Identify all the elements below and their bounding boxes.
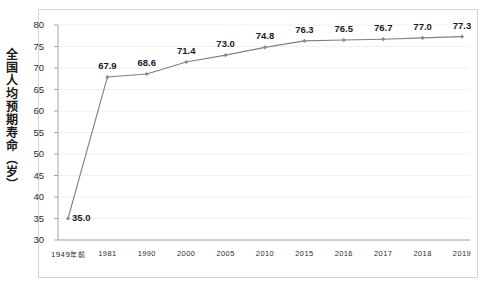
x-axis-tick-label: 2000 xyxy=(177,249,195,258)
data-point-value-label: 76.5 xyxy=(335,23,354,34)
data-point-value-label: 73.0 xyxy=(216,38,235,49)
y-axis-title-label: 全国人均预期寿命（岁） xyxy=(4,48,17,238)
data-point-value-label: 76.3 xyxy=(295,24,314,35)
x-axis-tick-label: 1990 xyxy=(138,249,156,258)
x-axis-tick-label: 1949年前 xyxy=(51,249,85,259)
data-point-value-label: 76.7 xyxy=(374,22,393,33)
y-axis-tick-label: 45 xyxy=(22,171,44,181)
chart-figure: 全国人均预期寿命（岁） 8075706560555045403530 1949年… xyxy=(0,0,488,291)
data-point-value-label: 74.8 xyxy=(256,30,275,41)
data-point-value-label: 71.4 xyxy=(177,45,196,56)
data-point-value-label: 67.9 xyxy=(98,60,117,71)
chart-frame-border xyxy=(38,9,478,278)
x-axis-tick-label: 2016 xyxy=(335,249,353,258)
y-axis-title: 全国人均预期寿命（岁） xyxy=(4,48,30,238)
y-axis-tick-label: 50 xyxy=(22,149,44,159)
data-point-value-label: 77.0 xyxy=(413,21,432,32)
x-axis-tick-label: 2010 xyxy=(256,249,274,258)
y-axis-tick-label: 65 xyxy=(22,85,44,95)
x-axis-tick-label: 2005 xyxy=(216,249,234,258)
x-axis-tick-label: 1981 xyxy=(98,249,116,258)
y-axis-tick-label: 35 xyxy=(22,214,44,224)
y-axis-tick-label: 30 xyxy=(22,235,44,245)
x-axis-tick-label: 2015 xyxy=(295,249,313,258)
data-point-value-label: 77.3 xyxy=(453,20,472,31)
y-axis-tick-label: 40 xyxy=(22,192,44,202)
y-axis-tick-label: 70 xyxy=(22,63,44,73)
x-axis-tick-label: 2019 xyxy=(453,249,471,258)
x-axis-tick-label: 2017 xyxy=(374,249,392,258)
y-axis-tick-label: 75 xyxy=(22,42,44,52)
y-axis-tick-label: 55 xyxy=(22,128,44,138)
y-axis-tick-label: 80 xyxy=(22,20,44,30)
y-axis-tick-label: 60 xyxy=(22,106,44,116)
data-point-value-label: 35.0 xyxy=(72,212,91,223)
data-point-value-label: 68.6 xyxy=(138,57,157,68)
x-axis-tick-label: 2018 xyxy=(413,249,431,258)
